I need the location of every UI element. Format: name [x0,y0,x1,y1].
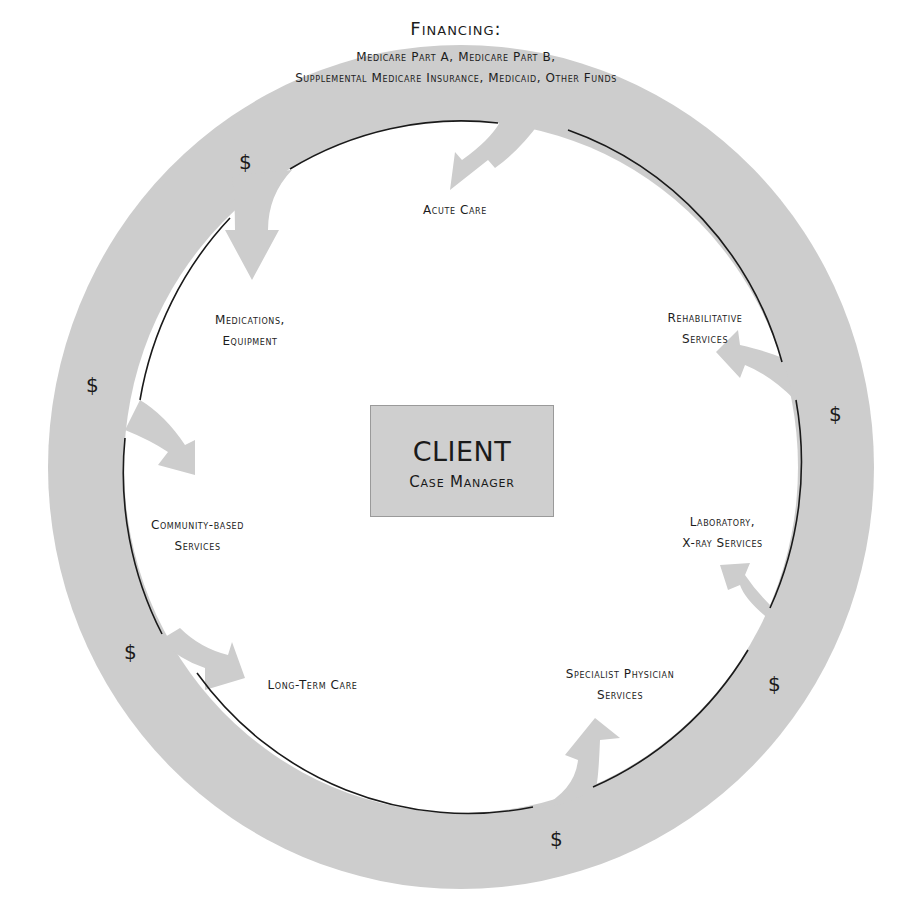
label-line: Services [645,329,765,350]
label-acute-care: Acute Care [400,200,510,221]
dollar-icon: $ [550,827,563,851]
label-line: Equipment [195,331,305,352]
label-specialist-physician-services: Specialist Physician Services [535,664,705,706]
label-medications-equipment: Medications, Equipment [195,310,305,352]
financing-title: Financing: [0,18,912,39]
label-long-term-care: Long-Term Care [250,675,375,696]
label-line: Specialist Physician [535,664,705,685]
dollar-icon: $ [239,150,252,174]
label-laboratory-xray-services: Laboratory, X-ray Services [660,512,785,554]
dollar-icon: $ [829,402,842,426]
label-line: Services [125,536,270,557]
label-community-based-services: Community-based Services [125,515,270,557]
label-line: Medications, [195,310,305,331]
dollar-icon: $ [124,640,137,664]
label-rehabilitative-services: Rehabilitative Services [645,308,765,350]
label-line: Services [535,685,705,706]
financing-sources-line1: Medicare Part A, Medicare Part B, [0,50,912,64]
label-line: Long-Term Care [250,675,375,696]
client-box: CLIENT Case Manager [370,405,554,517]
dollar-icon: $ [86,373,99,397]
label-line: Laboratory, [660,512,785,533]
label-line: Rehabilitative [645,308,765,329]
client-title: CLIENT [371,436,553,467]
dollar-icon: $ [768,672,781,696]
financing-sources-line2: Supplemental Medicare Insurance, Medicai… [0,71,912,85]
label-line: Acute Care [400,200,510,221]
case-manager-label: Case Manager [371,473,553,491]
label-line: Community-based [125,515,270,536]
label-line: X-ray Services [660,533,785,554]
